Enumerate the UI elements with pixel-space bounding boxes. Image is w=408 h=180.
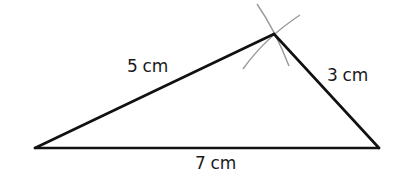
label-base: 7 cm xyxy=(195,153,236,173)
side-right xyxy=(274,34,379,148)
side-left xyxy=(35,34,274,148)
label-left-side: 5 cm xyxy=(127,56,168,76)
construction-arc-2 xyxy=(243,15,300,69)
label-right-side: 3 cm xyxy=(327,65,368,85)
